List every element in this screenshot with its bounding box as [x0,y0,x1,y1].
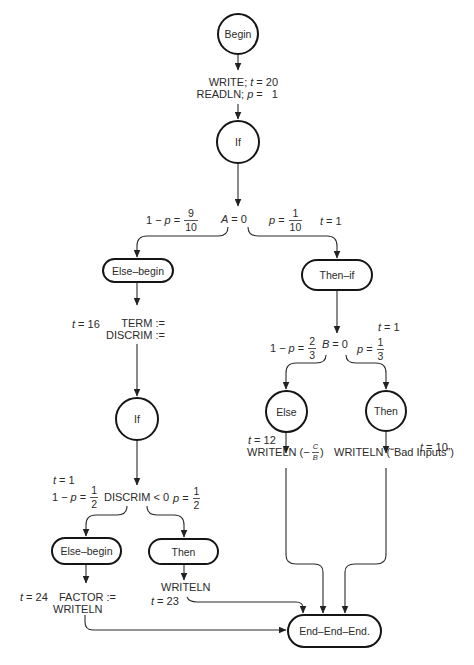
prob-var: p [289,342,295,354]
node-begin-label: Begin [225,28,252,40]
node-then-b: Then [365,390,407,432]
node-else-begin-a: Else–begin [102,258,174,283]
time-value: = 1 [384,321,400,333]
node-else-begin-discrim-label: Else–begin [61,545,113,557]
numerator: 1 [377,337,385,349]
time-var: t [20,591,23,603]
denominator: 2 [193,498,201,511]
writeln-bad-inputs: WRITELN (“Bad Inputs”) [334,446,454,458]
branch-a-condition: A = 0 [221,205,247,233]
node-if-discrim: If [115,397,159,441]
node-then-b-label: Then [374,405,398,417]
branch-a-false-probability: 1 − p = 9 10 [146,206,198,234]
time-var: t [250,76,253,88]
fraction: C B [312,443,319,462]
else-begin-discrim-time: t = 24 [20,591,48,603]
node-if-discrim-label: If [134,413,140,425]
writeln-prefix: WRITELN (− [247,446,310,458]
factor-assign: FACTOR := [59,591,116,603]
denominator: 3 [308,348,316,361]
readln-stmt: READLN; [196,88,244,100]
node-if-a-label: If [235,136,241,148]
condition-rest: = 0 [231,213,247,225]
time-value: = 23 [157,595,179,607]
node-begin: Begin [217,13,259,55]
write-stmt: WRITE; [209,76,248,88]
fraction: 1 10 [289,208,303,233]
numerator: 9 [187,208,195,220]
else-begin-a-statements: TERM := DISCRIM := [95,317,165,341]
equals: = [278,214,284,226]
branch-b-condition: B = 0 [322,330,348,358]
prob-var: p [165,214,171,226]
fraction: 2 3 [308,336,316,361]
node-then-discrim-label: Then [172,546,196,558]
equals: = [80,491,86,503]
node-else-b-label: Else [276,406,296,418]
branch-b-time: t = 1 [378,321,400,333]
fraction: 9 10 [184,208,198,233]
time-value: = 20 [256,76,278,88]
node-then-discrim: Then [148,538,219,565]
numerator: 1 [291,208,299,220]
equals: = [174,214,180,226]
node-else-b: Else [265,390,308,433]
flowchart-canvas: Begin If Else–begin Then–if If Else–begi… [0,0,474,665]
time-var: t [151,595,154,607]
condition-var: B [322,338,329,350]
branch-discrim-condition: DISCRIM < 0 [104,483,169,511]
condition-text: DISCRIM < 0 [104,491,169,503]
denominator: 10 [184,220,198,233]
node-then-if: Then–if [301,259,373,291]
numerator: 1 [193,486,201,498]
node-else-begin-discrim: Else–begin [51,537,122,565]
branch-a-true-probability: p = 1 10 [269,206,302,234]
fraction: 1 2 [193,486,201,511]
then-discrim-writeln: WRITELN [161,581,211,593]
edge-writeln-t23-to-end [187,597,303,613]
node-end: End–End–End. [287,614,382,648]
numerator: 2 [308,336,316,348]
then-b-writeln: WRITELN (“Bad Inputs”) [334,446,454,458]
writeln-text: WRITELN [53,603,103,615]
prob-var: p [247,88,253,100]
time-var: t [378,321,381,333]
condition-rest: = 0 [332,338,348,350]
writeln-suffix: ) [320,446,324,458]
fraction: 1 2 [90,485,98,510]
time-value: = 1 [326,215,342,227]
prob-prefix: 1 − [146,214,162,226]
factor-writeln: WRITELN [53,603,103,615]
prob-var: p [71,491,77,503]
time-var: t [72,318,75,330]
node-then-if-label: Then–if [319,269,354,281]
prob-var: p [173,492,179,504]
branch-b-true-probability: p = 1 3 [357,335,384,363]
branch-a-true-time: t = 1 [320,207,342,235]
begin-statements: WRITE; t = 20 READLN; p = 1 [150,76,278,100]
edge-else-b-writeln-to-end [286,468,323,613]
branch-discrim-true-probability: p = 1 2 [173,484,200,512]
term-assign: TERM := [121,317,165,329]
condition-var: A [221,213,228,225]
denominator: B [312,452,319,462]
numerator: C [312,443,319,452]
then-discrim-time: t = 23 [151,595,179,607]
node-end-label: End–End–End. [299,625,370,637]
discrim-assign: DISCRIM := [106,329,165,341]
denominator: 10 [289,220,303,233]
branch-b-false-probability: 1 − p = 2 3 [270,334,316,362]
prob-var: p [357,343,363,355]
edge-factor-to-end [85,615,286,630]
factor-assign-text: FACTOR := [59,591,116,603]
prob-value: = 1 [256,88,278,100]
prob-prefix: 1 − [52,491,68,503]
prob-prefix: 1 − [270,342,286,354]
write-line: WRITE; t = 20 [150,76,278,88]
fraction: 1 3 [377,337,385,362]
node-else-begin-a-label: Else–begin [112,265,164,277]
equals: = [366,343,372,355]
time-value: = 24 [26,591,48,603]
equals: = [182,492,188,504]
branch-discrim-false-probability: 1 − p = 1 2 [52,483,98,511]
